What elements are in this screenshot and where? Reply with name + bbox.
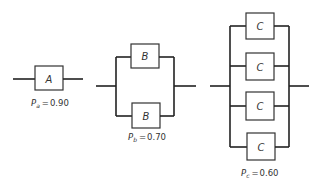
block-b-1-label: B [142, 51, 149, 62]
block-b-2-label: B [143, 111, 150, 122]
system-b-reliability-label: Pb=0.70 [128, 132, 166, 143]
reliability-diagram: A Pa=0.90 B B Pb=0.70 C C C [0, 0, 320, 191]
block-c-3-label: C [257, 101, 264, 112]
block-c-4-label: C [258, 142, 265, 153]
block-c-2-label: C [257, 62, 264, 73]
block-c-1-label: C [257, 21, 264, 32]
system-b: B B Pb=0.70 [96, 44, 196, 143]
system-a-reliability-label: Pa=0.90 [31, 98, 69, 109]
system-c: C C C C Pc=0.60 [210, 13, 309, 179]
system-c-reliability-label: Pc=0.60 [241, 168, 279, 179]
system-a: A Pa=0.90 [13, 66, 83, 109]
block-a-label: A [45, 74, 53, 85]
